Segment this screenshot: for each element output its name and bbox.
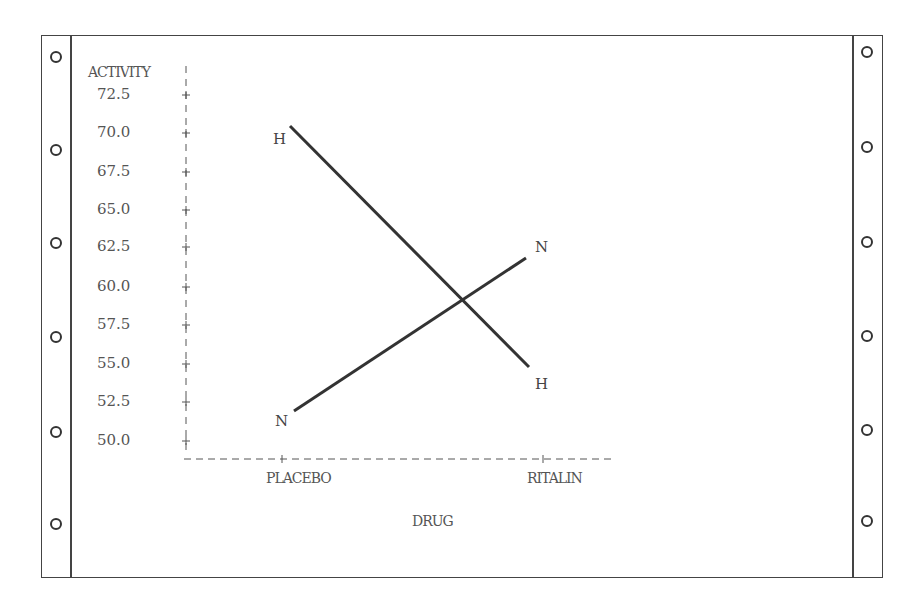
x-axis-title: DRUG [412, 513, 453, 529]
series-h-line [290, 126, 529, 367]
x-tick-label-ritalin: RITALIN [527, 470, 582, 486]
x-tick-label-placebo: PLACEBO [266, 470, 331, 486]
plot-area [0, 0, 920, 605]
point-label-n-ritalin: N [535, 238, 548, 256]
point-label-n-placebo: N [275, 412, 288, 430]
point-label-h-placebo: H [273, 130, 286, 148]
point-label-h-ritalin: H [535, 375, 548, 393]
series-n-line [294, 258, 526, 411]
